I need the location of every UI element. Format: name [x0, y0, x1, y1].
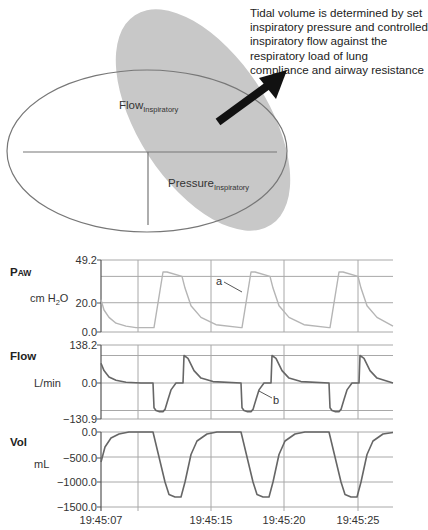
annotation-b: b: [273, 394, 279, 406]
ventilator-waveforms: 49.220.00.0PAWcm H2Oa138.20.0−130.9FlowL…: [10, 254, 393, 526]
panel-paw: 49.220.00.0PAWcm H2Oa: [10, 254, 393, 338]
y-tick-label: −1500.0: [57, 501, 97, 513]
shaded-flow-ellipse: [80, 0, 325, 260]
annotation-a: a: [216, 275, 223, 287]
y-tick-label: 0.0: [82, 377, 97, 389]
unit-label-flow: L/min: [34, 377, 61, 389]
y-tick-label: 0.0: [82, 326, 97, 338]
y-tick-label: −500.0: [63, 452, 97, 464]
waveform-paw: [101, 272, 393, 328]
unit-label-vol: mL: [34, 458, 49, 470]
x-tick-label: 19:45:20: [263, 514, 306, 526]
panel-label-paw: PAW: [10, 266, 32, 278]
y-tick-label: 49.2: [76, 254, 97, 266]
y-tick-label: −130.9: [63, 413, 97, 425]
unit-label-paw: cm H2O: [30, 292, 69, 307]
x-tick-label: 19:45:15: [190, 514, 233, 526]
panel-flow: 138.20.0−130.9FlowL/minb: [10, 339, 393, 425]
y-tick-label: −1000.0: [57, 476, 97, 488]
panel-label-vol: Vol: [10, 436, 27, 448]
panel-label-flow: Flow: [10, 350, 36, 362]
x-tick-label: 19:45:07: [80, 514, 123, 526]
waveform-flow: [101, 356, 393, 412]
panel-vol: 0.0−500.0−1000.0−1500.0VolmL: [10, 426, 393, 513]
waveform-vol: [101, 432, 393, 497]
y-tick-label: 0.0: [82, 426, 97, 438]
x-tick-label: 19:45:25: [337, 514, 380, 526]
concept-diagram: FlowInspiratory PressureInspiratory: [7, 0, 326, 260]
y-tick-label: 138.2: [69, 339, 97, 351]
y-tick-label: 20.0: [76, 297, 97, 309]
